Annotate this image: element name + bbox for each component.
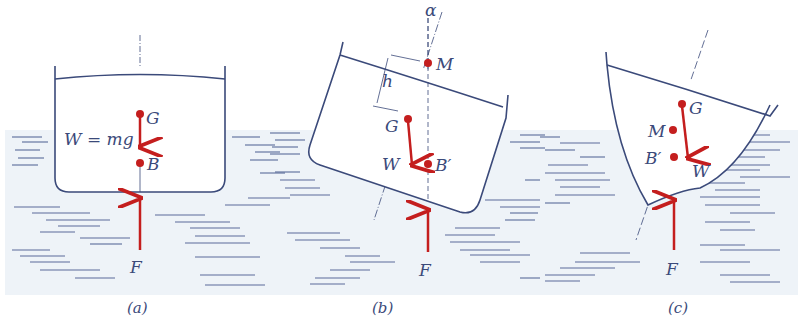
caption-b: (b) bbox=[372, 299, 393, 317]
label-G: G bbox=[385, 116, 399, 136]
label-F: F bbox=[418, 260, 432, 280]
diagram-canvas: G W = mg B F (a) h α M G W B′ F (b) bbox=[0, 0, 803, 329]
point-B bbox=[424, 160, 432, 168]
figure-stability: G W = mg B F (a) h α M G W B′ F (b) bbox=[0, 0, 803, 329]
caption-a: (a) bbox=[127, 299, 148, 317]
label-G: G bbox=[146, 108, 160, 128]
label-alpha: α bbox=[425, 0, 437, 20]
point-G bbox=[678, 100, 686, 108]
point-M bbox=[424, 59, 432, 67]
point-G bbox=[136, 110, 144, 118]
label-h: h bbox=[382, 71, 393, 91]
label-B-prime: B′ bbox=[644, 148, 661, 168]
label-B: B bbox=[146, 154, 160, 174]
label-M: M bbox=[647, 121, 666, 141]
label-F: F bbox=[129, 257, 143, 277]
point-B bbox=[136, 159, 144, 167]
point-G bbox=[404, 115, 412, 123]
caption-c: (c) bbox=[668, 299, 688, 317]
label-W: W bbox=[382, 154, 401, 174]
label-B-prime: B′ bbox=[434, 155, 451, 175]
label-W: W bbox=[692, 161, 711, 181]
label-W: W = mg bbox=[64, 129, 134, 149]
label-M: M bbox=[435, 54, 454, 74]
label-G: G bbox=[689, 98, 703, 118]
point-M bbox=[669, 126, 677, 134]
label-F: F bbox=[665, 259, 679, 279]
point-B bbox=[670, 153, 678, 161]
